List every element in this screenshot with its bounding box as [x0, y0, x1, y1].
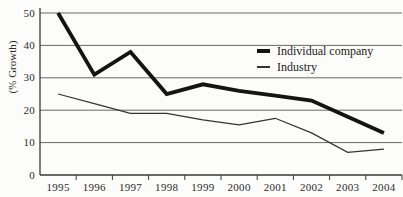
y-tick-label: 40	[23, 39, 35, 51]
series-line-industry	[58, 94, 384, 152]
legend-label-individual-company: Individual company	[277, 43, 373, 59]
y-tick-label: 50	[23, 7, 35, 19]
x-tick-label: 1997	[119, 181, 142, 193]
x-tick-label: 2002	[300, 181, 323, 193]
legend-label-industry: Industry	[277, 59, 317, 75]
legend-item-individual-company: Individual company	[257, 43, 373, 59]
y-tick-label: 20	[23, 104, 35, 116]
x-tick-label: 2001	[264, 181, 287, 193]
x-tick-label: 2000	[227, 181, 250, 193]
thick-line-swatch-icon	[257, 49, 270, 53]
x-tick-label: 1996	[83, 181, 106, 193]
growth-line-chart-figure: (% Growth) 01020304050199519961997199819…	[0, 0, 403, 197]
legend-item-industry: Industry	[257, 59, 373, 75]
x-tick-label: 2003	[336, 181, 359, 193]
y-tick-label: 0	[29, 169, 35, 181]
x-tick-label: 2004	[372, 181, 395, 193]
legend: Individual company Industry	[257, 43, 373, 75]
x-tick-label: 1998	[155, 181, 178, 193]
line-chart-plot-area: 0102030405019951996199719981999200020012…	[0, 0, 403, 197]
y-tick-label: 10	[23, 136, 35, 148]
x-tick-label: 1999	[191, 181, 214, 193]
x-tick-label: 1995	[46, 181, 69, 193]
thin-line-swatch-icon	[257, 66, 270, 68]
y-tick-label: 30	[23, 71, 35, 83]
